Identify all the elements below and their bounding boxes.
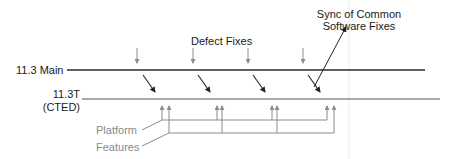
platform-arrows (142, 106, 327, 130)
features-leader-line (142, 133, 169, 146)
ctd-branch-label-line1: 11.3T (40, 88, 80, 100)
diagonal-arrow-icon (253, 75, 265, 92)
diagonal-arrow-icon (143, 75, 155, 92)
diagonal-arrow-icon (308, 75, 320, 92)
feature-arrows (142, 106, 334, 146)
main-branch-label: 11.3 Main (16, 64, 64, 76)
merge-arrows (143, 75, 320, 92)
ctd-branch-label-line2: (CTED) (30, 101, 80, 113)
sync-label-line2: Software Fixes (300, 20, 418, 32)
sync-label-line1: Sync of Common (300, 8, 418, 20)
diagonal-arrow-icon (198, 75, 210, 92)
platform-label: Platform (96, 124, 137, 136)
sync-arrow-icon (314, 27, 346, 87)
branch-sync-diagram: 11.3 Main 11.3T (CTED) Defect Fixes Sync… (0, 0, 452, 159)
defect-fixes-label: Defect Fixes (191, 35, 252, 47)
platform-leader-line (142, 120, 162, 130)
sync-callout (314, 27, 346, 87)
defect-fix-arrows (137, 48, 303, 63)
features-label: Features (96, 141, 139, 153)
